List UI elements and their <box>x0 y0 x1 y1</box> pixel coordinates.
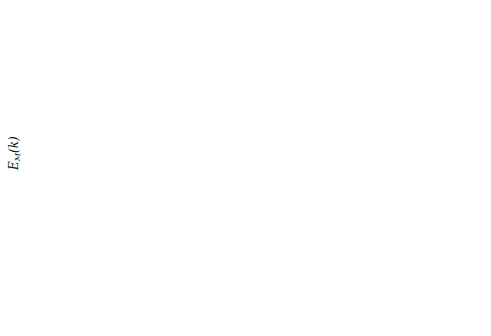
y-axis-label: EM(k) <box>8 136 22 170</box>
figure <box>0 0 491 336</box>
